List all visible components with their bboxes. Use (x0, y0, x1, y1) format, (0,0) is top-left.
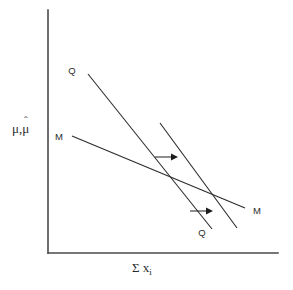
m-curve (72, 136, 245, 208)
q-curve-initial-label: Q (68, 65, 75, 76)
q-curve-initial (88, 74, 212, 229)
y-axis-label: μ,ˆμ (12, 122, 29, 135)
x-axis-label: Σ xi (132, 261, 152, 277)
diagram-canvas: Q Q M M (0, 0, 293, 290)
hat-accent-icon: ˆ (22, 115, 29, 126)
m-curve-label-right: M (253, 205, 261, 216)
shift-arrow-upper (155, 153, 178, 160)
y-axis-label-mu: μ (12, 121, 19, 136)
x-axis-label-subscript: i (149, 267, 152, 277)
economics-shift-diagram: Q Q M M μ,ˆμ Σ xi (0, 0, 293, 290)
y-axis-label-mu-hat: ˆμ (22, 122, 29, 135)
shift-arrow-lower (190, 207, 213, 214)
x-axis-label-sigma: Σ (132, 260, 140, 275)
shift-arrow-upper-head (171, 153, 178, 160)
q-curve-shifted-label: Q (198, 227, 205, 238)
m-curve-label-left: M (55, 131, 63, 142)
shift-arrow-lower-head (206, 207, 213, 214)
